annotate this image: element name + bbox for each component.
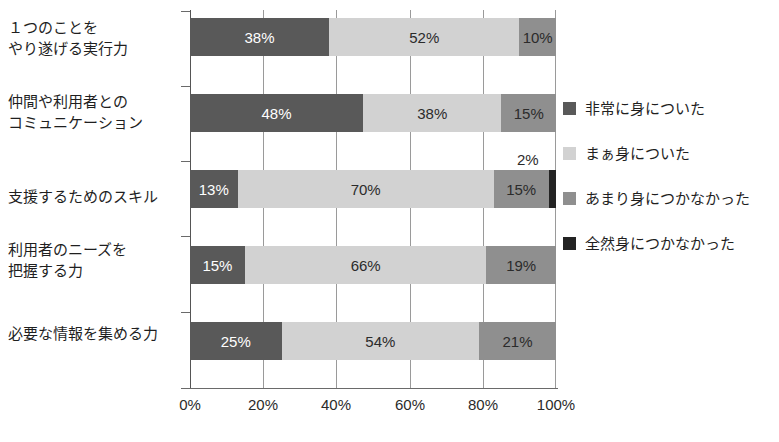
bar-segment: 48%	[190, 94, 363, 132]
bar-row: 25% 54% 21%	[190, 322, 556, 360]
y-axis-tick-0	[181, 11, 190, 12]
bar-segment-callout-label: 2%	[517, 151, 539, 168]
bar-segment: 70%	[238, 170, 494, 208]
legend-label: まぁ身についた	[585, 146, 690, 161]
y-axis-tick-4	[181, 312, 190, 313]
bar-segment-label: 70%	[351, 182, 381, 197]
bar-segment: 15%	[501, 94, 556, 132]
y-axis-tick-3	[181, 236, 190, 237]
category-label-2: 支援するためのスキル	[8, 186, 186, 207]
x-axis-tick-label: 80%	[468, 396, 498, 413]
bar-segment: 38%	[363, 94, 501, 132]
legend-swatch-icon	[563, 102, 576, 115]
bar-segment: 19%	[486, 246, 556, 284]
bar-segment-label: 54%	[365, 334, 395, 349]
bar-segment-label: 52%	[409, 30, 439, 45]
bar-segment-label: 15%	[514, 106, 544, 121]
legend-item: あまり身につかなかった	[563, 190, 777, 206]
y-axis-tick-5	[181, 388, 190, 389]
legend-swatch-icon	[563, 147, 576, 160]
bar-segment-label: 19%	[506, 258, 536, 273]
x-axis-tick-label: 100%	[537, 396, 575, 413]
legend-swatch-icon	[563, 192, 576, 205]
bar-segment-label: 13%	[199, 182, 229, 197]
bar-segment-label: 38%	[245, 30, 275, 45]
bar-segment-label: 66%	[351, 258, 381, 273]
bar-segment: 54%	[282, 322, 480, 360]
bar-segment: 15%	[494, 170, 549, 208]
bar-segment-label: 15%	[202, 258, 232, 273]
bar-segment: 13%	[190, 170, 238, 208]
bar-segment: 15%	[190, 246, 245, 284]
legend-item: まぁ身についた	[563, 145, 777, 161]
category-label-0: １つのことを やり遂げる実行力	[8, 17, 186, 59]
bar-segment: 66%	[245, 246, 487, 284]
category-label-3: 利用者のニーズを 把握する力	[8, 239, 186, 281]
x-axis-tick-label: 40%	[321, 396, 351, 413]
bar-segment	[549, 170, 556, 208]
bar-segment: 21%	[479, 322, 556, 360]
bar-segment: 10%	[519, 18, 556, 56]
legend-item: 非常に身についた	[563, 100, 777, 116]
category-label-4: 必要な情報を集める力	[8, 323, 186, 344]
legend-label: 非常に身についた	[585, 101, 705, 116]
x-axis-tick-label: 0%	[179, 396, 201, 413]
legend-swatch-icon	[563, 237, 576, 250]
bar-segment-label: 48%	[262, 106, 292, 121]
bar-segment-label: 25%	[221, 334, 251, 349]
bar-row: 13% 70% 15%	[190, 170, 556, 208]
x-axis-tick-label: 20%	[248, 396, 278, 413]
bar-segment: 25%	[190, 322, 282, 360]
x-axis-line	[190, 388, 558, 389]
legend-label: 全然身につかなかった	[585, 236, 735, 251]
bar-row: 38% 52% 10%	[190, 18, 556, 56]
bar-segment-label: 38%	[417, 106, 447, 121]
stacked-bar-chart: １つのことを やり遂げる実行力 仲間や利用者との コミュニケーション 支援するた…	[0, 0, 779, 442]
bar-segment-label: 10%	[523, 30, 553, 45]
bar-row: 15% 66% 19%	[190, 246, 556, 284]
figure-caption	[0, 434, 779, 442]
x-axis-tick-label: 60%	[395, 396, 425, 413]
y-axis-tick-1	[181, 86, 190, 87]
bar-row: 48% 38% 15%	[190, 94, 556, 132]
plot-area: 38% 52% 10% 48% 38% 15% 13% 70% 15% 2% 1…	[190, 10, 556, 388]
bar-segment: 38%	[190, 18, 329, 56]
legend-label: あまり身につかなかった	[585, 191, 750, 206]
bar-segment-label: 21%	[503, 334, 533, 349]
legend-item: 全然身につかなかった	[563, 235, 777, 251]
bar-segment-label: 15%	[506, 182, 536, 197]
category-label-1: 仲間や利用者との コミュニケーション	[8, 91, 186, 133]
y-axis-tick-2	[181, 161, 190, 162]
bar-segment: 52%	[329, 18, 519, 56]
legend: 非常に身についた まぁ身についた あまり身につかなかった 全然身につかなかった	[563, 100, 777, 280]
